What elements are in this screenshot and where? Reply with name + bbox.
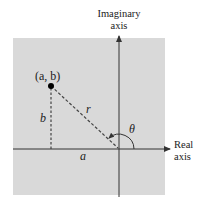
label-r: r xyxy=(86,102,91,116)
complex-plane-diagram: Imaginary axis Real axis (a, b) b r a θ xyxy=(0,0,203,210)
complex-plane-background xyxy=(13,38,165,195)
imaginary-axis-label-line2: axis xyxy=(111,20,128,31)
real-axis-label-line1: Real xyxy=(174,139,193,150)
imaginary-axis-label-line1: Imaginary xyxy=(97,8,141,19)
point-a-b xyxy=(48,83,54,89)
diagram-canvas: Imaginary axis Real axis (a, b) b r a θ xyxy=(0,0,203,210)
label-b: b xyxy=(40,111,46,125)
real-axis-label-line2: axis xyxy=(174,151,191,162)
label-theta: θ xyxy=(129,122,135,136)
point-label: (a, b) xyxy=(35,69,60,83)
label-a: a xyxy=(80,149,86,163)
